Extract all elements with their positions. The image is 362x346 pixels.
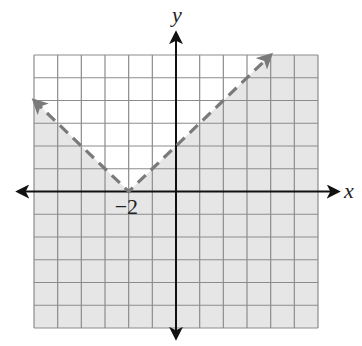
y-axis-label: y bbox=[170, 2, 182, 27]
vertex-tick-label: −2 bbox=[115, 194, 138, 219]
x-axis-label: x bbox=[343, 178, 354, 203]
coordinate-graph: x y −2 bbox=[0, 0, 362, 346]
